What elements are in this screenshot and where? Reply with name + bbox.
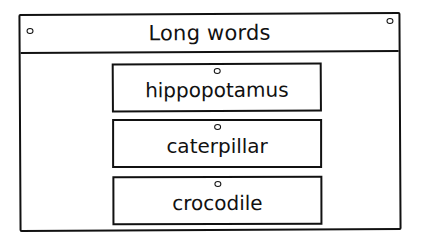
word-board: Long words hippopotamus caterpillar croc… [18,12,401,232]
pin-icon [214,181,221,187]
board-title: Long words [148,21,270,46]
pin-icon [214,68,221,74]
word-card-crocodile: crocodile [112,176,322,225]
word-card-label: hippopotamus [145,77,289,102]
word-card-hippopotamus: hippopotamus [112,62,322,112]
word-card-caterpillar: caterpillar [112,119,322,168]
pin-icon [214,124,221,130]
word-card-label: crocodile [172,190,262,214]
word-card-label: caterpillar [166,133,267,157]
board-header: Long words [20,14,398,54]
